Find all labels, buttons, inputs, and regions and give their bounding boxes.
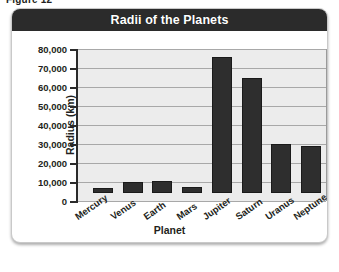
y-axis-tick: 40,000 <box>70 125 78 127</box>
y-axis-tick: 80,000 <box>70 49 78 51</box>
bar <box>182 187 202 193</box>
bar <box>242 78 262 193</box>
y-axis-tick-label: 60,000 <box>38 82 67 93</box>
y-axis-tick: 0 <box>70 201 78 203</box>
y-axis-tick-label: 30,000 <box>38 139 67 150</box>
y-axis-tick-label: 80,000 <box>38 44 67 55</box>
plot-area <box>76 49 327 201</box>
bars-group <box>88 57 326 193</box>
chart-title-bar: Radii of the Planets <box>12 9 327 31</box>
y-axis-tick-label: 40,000 <box>38 120 67 131</box>
gridline <box>76 49 326 50</box>
bar <box>123 182 143 193</box>
y-axis-tick: 60,000 <box>70 87 78 89</box>
chart-title: Radii of the Planets <box>111 13 229 27</box>
y-axis-tick-label: 10,000 <box>38 177 67 188</box>
y-axis-tick: 70,000 <box>70 68 78 70</box>
y-axis-tick: 10,000 <box>70 182 78 184</box>
y-axis-tick: 30,000 <box>70 144 78 146</box>
y-axis-tick: 20,000 <box>70 163 78 165</box>
y-axis-tick: 50,000 <box>70 106 78 108</box>
figure-caption: Figure 12 <box>6 0 52 5</box>
bar <box>301 146 321 193</box>
chart-card: Radii of the Planets Radius (km) 010,000… <box>11 8 328 243</box>
bar <box>152 181 172 193</box>
y-axis-tick-label: 50,000 <box>38 101 67 112</box>
bar <box>271 144 291 193</box>
x-axis-title: Planet <box>12 224 327 236</box>
bar <box>212 57 232 193</box>
y-axis-tick-label: 0 <box>62 196 67 207</box>
plot-wrap: Radius (km) 010,00020,00030,00040,00050,… <box>64 41 327 209</box>
y-axis-tick-label: 70,000 <box>38 63 67 74</box>
y-axis-tick-label: 20,000 <box>38 158 67 169</box>
